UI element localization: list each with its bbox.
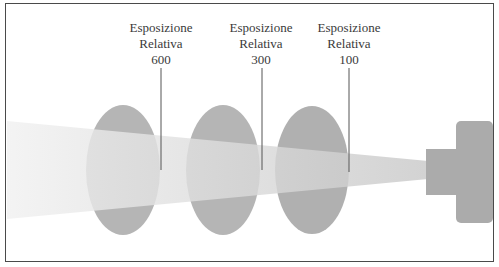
source-housing xyxy=(456,121,493,223)
label-subtitle: Relativa xyxy=(116,36,206,52)
label-subtitle: Relativa xyxy=(304,36,394,52)
exposure-label-600: Esposizione Relativa 600 xyxy=(116,20,206,68)
label-title: Esposizione xyxy=(216,20,306,36)
label-value: 100 xyxy=(304,52,394,68)
label-title: Esposizione xyxy=(116,20,206,36)
label-title: Esposizione xyxy=(304,20,394,36)
source-nozzle xyxy=(426,149,456,195)
exposure-label-100: Esposizione Relativa 100 xyxy=(304,20,394,68)
exposure-label-300: Esposizione Relativa 300 xyxy=(216,20,306,68)
label-value: 300 xyxy=(216,52,306,68)
label-subtitle: Relativa xyxy=(216,36,306,52)
label-value: 600 xyxy=(116,52,206,68)
